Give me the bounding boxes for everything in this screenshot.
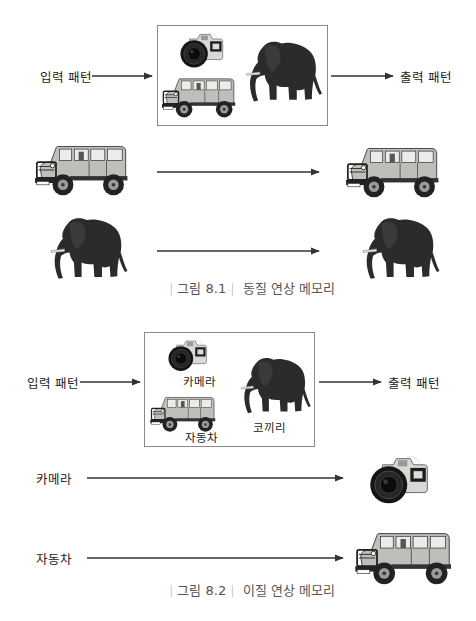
pair-camera-output-image	[367, 454, 429, 508]
pair-jeep-output-image	[346, 145, 442, 199]
pair-jeep-input-label: 자동차	[36, 549, 72, 568]
input-arrow	[92, 73, 154, 79]
elephant-image	[231, 355, 313, 417]
camera-image	[166, 338, 208, 374]
elephant-label: 코끼리	[253, 419, 286, 435]
output-arrow	[319, 379, 383, 385]
jeep-label: 자동차	[185, 429, 218, 445]
camera-image	[178, 31, 224, 71]
pair-jeep-arrow	[157, 169, 321, 175]
jeep-image	[162, 76, 238, 119]
pair-elephant-output-image	[352, 215, 442, 283]
output-pattern-label: 출력 패턴	[400, 67, 452, 86]
figure-caption: |그림 8.2| 이질 연상 메모리	[165, 580, 335, 599]
pair-camera-arrow	[87, 475, 345, 481]
elephant-image	[238, 38, 322, 106]
caption-number: 그림 8.2	[177, 583, 226, 598]
output-pattern-label: 출력 패턴	[388, 373, 440, 392]
memory-box	[157, 25, 328, 126]
input-pattern-label: 입력 패턴	[40, 67, 92, 86]
caption-number: 그림 8.1	[177, 281, 226, 296]
pair-camera-input-label: 카메라	[36, 469, 72, 488]
output-arrow	[331, 73, 395, 79]
caption-divider: |	[230, 583, 234, 598]
pair-elephant-input-image	[40, 215, 130, 283]
pair-elephant-arrow	[157, 248, 321, 254]
figure-caption: |그림 8.1| 동질 연상 메모리	[165, 278, 335, 297]
pair-jeep-arrow	[87, 555, 345, 561]
input-arrow	[80, 379, 142, 385]
caption-divider: |	[169, 281, 173, 296]
caption-title: 동질 연상 메모리	[243, 281, 335, 296]
jeep-image	[150, 395, 218, 433]
caption-divider: |	[230, 281, 234, 296]
memory-box: 카메라 자동차 코끼리	[144, 332, 315, 447]
pair-jeep-input-image	[35, 143, 131, 197]
caption-divider: |	[169, 583, 173, 598]
caption-title: 이질 연상 메모리	[243, 583, 335, 598]
camera-label: 카메라	[183, 373, 216, 389]
pair-jeep-output-image	[355, 530, 455, 586]
input-pattern-label: 입력 패턴	[27, 373, 79, 392]
